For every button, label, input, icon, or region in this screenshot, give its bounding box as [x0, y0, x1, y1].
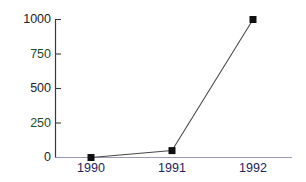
data-point-1991: [169, 147, 176, 154]
line-chart: 1000 750 500 250 0 1990 1991 1992: [0, 0, 306, 182]
y-tick-label-500: 500: [30, 81, 51, 95]
y-tick-label-250: 250: [30, 116, 51, 130]
x-tick-label-1990: 1990: [77, 161, 105, 175]
y-tick-label-0: 0: [44, 150, 51, 164]
chart-container: 1000 750 500 250 0 1990 1991 1992: [0, 0, 306, 182]
data-point-1990: [88, 154, 95, 161]
x-tick-label-1992: 1992: [239, 161, 267, 175]
x-tick-label-1991: 1991: [158, 161, 186, 175]
y-tick-label-750: 750: [30, 47, 51, 61]
y-tick-label-1000: 1000: [23, 12, 51, 26]
data-point-1992: [250, 16, 257, 23]
